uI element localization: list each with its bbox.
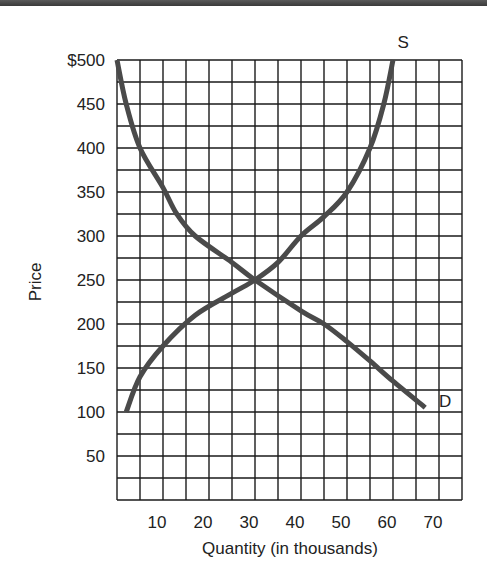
y-tick-label: 350: [77, 183, 105, 202]
y-tick-label: 200: [77, 315, 105, 334]
x-axis-label: Quantity (in thousands): [202, 539, 378, 558]
x-tick-label: 20: [194, 513, 213, 532]
demand-label: D: [439, 392, 451, 411]
x-tick-label: 50: [332, 513, 351, 532]
y-tick-label: 450: [77, 95, 105, 114]
curve-labels: SD: [398, 33, 452, 411]
x-tick-label: 60: [378, 513, 397, 532]
x-tick-label: 30: [240, 513, 259, 532]
y-tick-label: 400: [77, 139, 105, 158]
y-tick-label: 50: [86, 447, 105, 466]
y-tick-label: 250: [77, 271, 105, 290]
supply-label: S: [398, 33, 409, 52]
x-axis-ticks: 10203040506070: [148, 513, 443, 532]
x-tick-label: 70: [424, 513, 443, 532]
y-tick-label: 300: [77, 227, 105, 246]
x-tick-label: 40: [286, 513, 305, 532]
supply-demand-chart: $50045040035030025020015010050 102030405…: [0, 0, 487, 582]
y-axis-ticks: $50045040035030025020015010050: [67, 51, 105, 466]
chart-grid: [117, 60, 462, 500]
y-tick-label: 100: [77, 403, 105, 422]
y-axis-label: Price: [26, 263, 45, 302]
y-tick-label: $500: [67, 51, 105, 70]
x-tick-label: 10: [148, 513, 167, 532]
y-tick-label: 150: [77, 359, 105, 378]
